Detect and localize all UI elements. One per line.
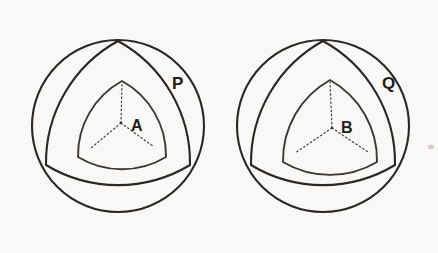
panel-left: P A: [32, 40, 204, 212]
label-p: P: [172, 74, 183, 93]
radius-b-2: [295, 128, 332, 153]
middle-reuleaux-left: [46, 41, 190, 185]
center-dot-b: [331, 127, 334, 130]
label-b: B: [341, 119, 353, 136]
figure-container: P A Q B: [0, 0, 438, 253]
radius-b-1: [330, 82, 332, 128]
label-q: Q: [382, 74, 395, 93]
center-dot-a: [120, 122, 123, 125]
geometry-diagram: P A Q B: [0, 0, 438, 253]
radii-group-a: [91, 83, 154, 148]
outer-circle-q: [237, 40, 409, 212]
radius-a-2: [91, 123, 121, 148]
radius-a-1: [121, 83, 122, 123]
panel-right: Q B: [237, 40, 409, 212]
scan-speck-artifact: [428, 145, 434, 149]
label-a: A: [131, 117, 143, 134]
radii-group-b: [295, 82, 368, 153]
